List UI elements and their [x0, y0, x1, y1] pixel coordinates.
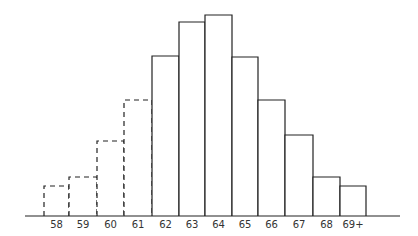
x-tick-label: 69+ — [342, 219, 363, 230]
bar-58 — [44, 186, 69, 216]
x-tick-label: 66 — [265, 219, 278, 230]
bars-group — [44, 15, 366, 216]
bar-66 — [258, 100, 285, 216]
x-tick-label: 60 — [104, 219, 117, 230]
bar-68 — [313, 177, 340, 216]
x-tick-label: 65 — [239, 219, 252, 230]
histogram-chart: 585960616263646566676869+ — [0, 0, 418, 236]
x-tick-label: 64 — [212, 219, 225, 230]
bar-60 — [97, 141, 124, 216]
x-tick-label: 63 — [186, 219, 199, 230]
bar-65 — [232, 57, 258, 216]
bar-61 — [124, 100, 152, 216]
bar-67 — [285, 135, 313, 216]
x-tick-label: 58 — [50, 219, 63, 230]
bar-69-plus — [340, 186, 366, 216]
x-tick-label: 61 — [132, 219, 145, 230]
bar-63 — [179, 22, 205, 216]
x-tick-labels: 585960616263646566676869+ — [50, 219, 363, 230]
bar-62 — [152, 56, 179, 216]
x-tick-label: 59 — [77, 219, 90, 230]
bar-64 — [205, 15, 232, 216]
x-tick-label: 68 — [320, 219, 333, 230]
x-tick-label: 67 — [293, 219, 306, 230]
x-tick-label: 62 — [159, 219, 172, 230]
bar-59 — [69, 177, 97, 216]
